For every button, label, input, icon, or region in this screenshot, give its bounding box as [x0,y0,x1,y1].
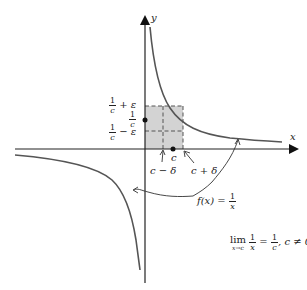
x-axis-arrow-icon [289,144,299,154]
x-axis-label: x [290,132,296,142]
function-label: f(x) = 1x [197,192,236,211]
label-lower-bound: 1c − ε [109,123,136,142]
label-c-minus-delta: c − δ [150,166,176,176]
limit-statement: limx→c 1x = 1c, c ≠ 0 [230,233,307,252]
label-c-plus-delta: c + δ [191,166,217,176]
point-one-over-c [143,118,148,123]
point-c [171,147,176,152]
epsilon-delta-box [145,106,183,149]
y-axis-label: y [151,13,157,23]
y-axis-arrow-icon [140,15,150,25]
curve-left-branch [15,155,140,270]
label-c: c [171,153,177,163]
epsilon-delta-diagram: y x 1c + ε 1c 1c − ε c c − δ c + δ f(x) … [0,0,307,290]
